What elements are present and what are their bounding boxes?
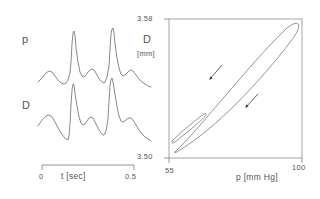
y-axis-tick-max: 3.58 [137, 14, 153, 23]
y-axis-tick-min: 3.50 [137, 152, 153, 161]
left-panel-traces [38, 28, 151, 141]
right-panel-axes [164, 19, 302, 163]
loop-traces [172, 23, 299, 153]
time-axis-label: t [sec] [61, 171, 86, 181]
y-axis-label: D [143, 33, 151, 45]
hysteresis-loop [175, 23, 299, 153]
pressure-waveform [38, 28, 151, 87]
x-axis-tick-max: 100 [292, 163, 305, 172]
x-axis-label: p [mm Hg] [236, 172, 278, 182]
x-axis-tick-min: 55 [165, 166, 174, 175]
loop-direction-arrow-lower [246, 94, 258, 107]
time-axis-tick-end: 0.5 [125, 172, 136, 181]
time-scale-bar [42, 165, 134, 170]
time-axis-tick-start: 0 [39, 172, 43, 181]
series-label-pressure: p [22, 33, 28, 45]
secondary-small-loop [172, 114, 206, 143]
series-label-diameter: D [22, 99, 30, 111]
loop-direction-arrow-upper [210, 65, 222, 79]
y-axis-units-label: [mm] [137, 49, 155, 58]
figure-root: p D 0 t [sec] 0.5 3.58 D [mm] 3.50 55 p … [0, 0, 320, 199]
figure-canvas [0, 0, 320, 199]
diameter-waveform [38, 78, 151, 141]
